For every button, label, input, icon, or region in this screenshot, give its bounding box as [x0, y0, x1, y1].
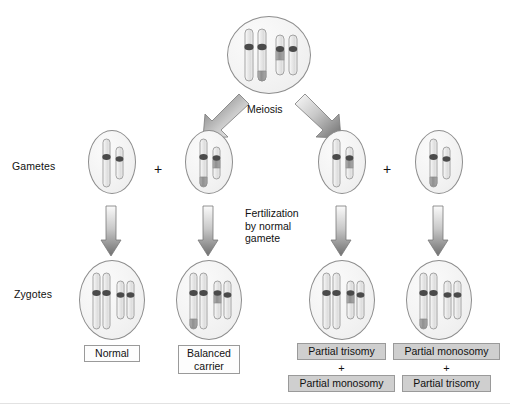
gamete-unbalanced-b-chromosomes	[416, 131, 464, 195]
gamete-balanced-chromosomes	[186, 131, 234, 195]
chromosome-long-derivative	[257, 29, 266, 81]
fertilization-label: Fertilization by normal gamete	[245, 207, 307, 245]
chromosome-long-normal	[332, 139, 340, 187]
zygote-balanced-carrier	[176, 260, 242, 340]
zygote-partial-monosomy-trisomy	[406, 260, 472, 340]
chromosome-short-normal-2	[454, 281, 462, 319]
chromosome-short-normal	[289, 35, 297, 75]
meiosis-label: Meiosis	[247, 103, 283, 116]
chromosome-long-normal-1	[92, 273, 100, 329]
chromosome-short-derivative	[214, 281, 222, 319]
fertilization-arrow-3	[330, 206, 352, 258]
plus-zygote-4: +	[393, 362, 500, 374]
chromosome-long-normal	[199, 273, 207, 329]
chromosome-long-derivative	[199, 139, 207, 187]
gamete-normal-chromosomes	[89, 131, 137, 195]
diagram-canvas: Meiosis Gametes +	[0, 0, 510, 410]
plus-gametes-2: +	[383, 162, 391, 176]
chromosome-short-derivative	[346, 147, 354, 179]
chromosome-long-derivative	[189, 273, 197, 329]
label-zygote-balanced-carrier: Balanced carrier	[178, 345, 240, 374]
fertilization-arrow-4	[427, 206, 449, 258]
row-label-zygotes: Zygotes	[14, 288, 52, 300]
zygote-partial-trisomy-monosomy	[309, 260, 375, 340]
chromosome-long-derivative	[429, 139, 437, 187]
zygote-partial-monosomy-trisomy-chromosomes	[407, 261, 473, 341]
chromosome-long-normal	[244, 29, 253, 81]
chromosome-short-normal	[224, 281, 232, 319]
parent-cell-chromosomes	[228, 17, 312, 95]
chromosome-long-normal	[102, 139, 110, 187]
parent-cell	[227, 16, 311, 94]
chromosome-long-normal-2	[332, 273, 340, 329]
zygote-normal	[79, 260, 145, 340]
chromosome-short-normal-1	[444, 281, 452, 319]
chromosome-short-normal	[116, 147, 124, 179]
zygote-normal-chromosomes	[80, 261, 146, 341]
chromosome-long-normal-2	[102, 273, 110, 329]
label-partial-trisomy-3: Partial trisomy	[297, 343, 386, 360]
label-partial-trisomy-4: Partial trisomy	[402, 375, 491, 392]
chromosome-short-normal-1	[117, 281, 125, 319]
gamete-balanced	[185, 130, 233, 194]
fertilization-arrow-1	[100, 206, 122, 258]
chromosome-long-normal	[429, 273, 437, 329]
zygote-balanced-carrier-chromosomes	[177, 261, 243, 341]
gamete-normal	[88, 130, 136, 194]
label-partial-monosomy-3: Partial monosomy	[288, 375, 395, 392]
chromosome-short-normal	[357, 281, 365, 319]
chromosome-short-derivative	[276, 35, 284, 75]
footer-divider	[0, 403, 510, 404]
label-partial-monosomy-4: Partial monosomy	[393, 343, 500, 360]
fertilization-arrow-2	[197, 206, 219, 258]
chromosome-short-normal	[443, 147, 451, 179]
gamete-unbalanced-a	[318, 130, 366, 194]
chromosome-short-derivative	[213, 147, 221, 179]
chromosome-short-normal-2	[127, 281, 135, 319]
zygote-partial-trisomy-monosomy-chromosomes	[310, 261, 376, 341]
row-label-gametes: Gametes	[12, 160, 55, 172]
plus-gametes-1: +	[154, 162, 162, 176]
chromosome-short-derivative	[347, 281, 355, 319]
chromosome-long-normal-1	[322, 273, 330, 329]
label-zygote-normal: Normal	[84, 345, 140, 362]
plus-zygote-3: +	[297, 362, 386, 374]
chromosome-long-derivative	[419, 273, 427, 329]
gamete-unbalanced-b	[415, 130, 463, 194]
gamete-unbalanced-a-chromosomes	[319, 131, 367, 195]
